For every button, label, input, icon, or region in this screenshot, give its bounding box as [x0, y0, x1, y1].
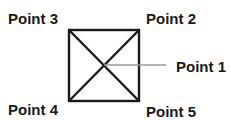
label-point-5: Point 5	[146, 104, 196, 119]
label-point-4: Point 4	[8, 102, 58, 117]
label-point-2: Point 2	[146, 11, 196, 26]
label-point-1: Point 1	[176, 59, 226, 74]
label-point-3: Point 3	[8, 11, 58, 26]
